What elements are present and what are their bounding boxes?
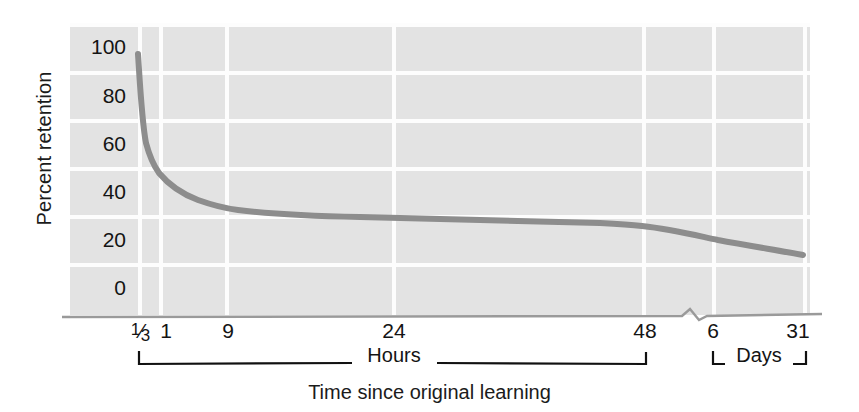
forgetting-curve-figure: Percent retention 100 80 60 40 20 0 1⁄3 — [0, 0, 859, 412]
fraction-denominator: 3 — [141, 326, 150, 345]
retention-curve — [70, 25, 810, 315]
axis-group-brackets — [0, 345, 859, 375]
x-tick-label-31-days: 31 — [786, 320, 809, 341]
x-tick-label-third-hour: 1⁄3 — [131, 320, 153, 341]
fraction-numerator: 1 — [131, 320, 140, 339]
hours-bracket-right — [437, 352, 646, 364]
y-axis-title: Percent retention — [33, 19, 56, 279]
days-bracket-left — [713, 351, 725, 364]
x-tick-label-9-hours: 9 — [222, 320, 234, 341]
fraction-one-third: 1⁄3 — [131, 320, 153, 341]
retention-curve-path — [138, 54, 803, 255]
hours-bracket-label: Hours — [367, 345, 420, 365]
x-tick-label-6-days: 6 — [707, 320, 719, 341]
hours-bracket-left — [139, 351, 352, 364]
days-bracket-right — [793, 351, 806, 364]
days-bracket-label: Days — [736, 345, 782, 365]
x-tick-label-1-hour: 1 — [160, 320, 172, 341]
x-tick-label-24-hours: 24 — [382, 320, 405, 341]
x-axis-caption: Time since original learning — [0, 381, 859, 404]
x-tick-label-48-hours: 48 — [633, 320, 656, 341]
